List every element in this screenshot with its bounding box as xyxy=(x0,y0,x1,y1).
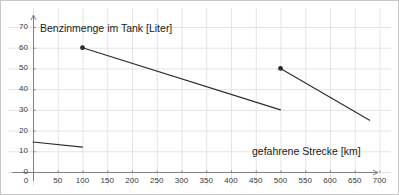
y-axis-tick-label: 20 xyxy=(19,127,28,135)
y-axis-title: Benzinmenge im Tank [Liter] xyxy=(40,23,172,34)
y-axis-tick-label: 10 xyxy=(19,147,28,155)
y-axis-tick-label: 0 xyxy=(24,168,28,176)
x-axis-tick-label: 50 xyxy=(53,177,62,185)
x-axis-tick-label: 0 xyxy=(24,177,28,185)
x-axis-tick-label: 100 xyxy=(76,177,89,185)
x-axis-tick-label: 350 xyxy=(200,177,213,185)
y-axis-tick-label: 30 xyxy=(19,106,28,114)
x-axis-tick-label: 300 xyxy=(175,177,188,185)
y-axis-tick-label: 60 xyxy=(19,44,28,52)
x-axis-tick-label: 150 xyxy=(101,177,114,185)
x-axis-tick-label: 250 xyxy=(150,177,163,185)
data-point-marker xyxy=(80,45,85,50)
x-axis-tick-label: 600 xyxy=(323,177,336,185)
x-axis-tick-label: 650 xyxy=(348,177,361,185)
x-axis-title: gefahrene Strecke [km] xyxy=(252,146,361,157)
y-axis-tick-label: 50 xyxy=(19,64,28,72)
x-axis-tick-label: 700 xyxy=(373,177,386,185)
y-axis-tick-label: 40 xyxy=(19,85,28,93)
x-axis-tick-label: 400 xyxy=(224,177,237,185)
x-axis-tick-label: 200 xyxy=(125,177,138,185)
data-point-marker xyxy=(278,66,283,71)
x-axis-tick-label: 450 xyxy=(249,177,262,185)
x-axis-tick-label: 500 xyxy=(274,177,287,185)
x-axis-tick-label: 550 xyxy=(299,177,312,185)
y-axis-tick-label: 70 xyxy=(19,23,28,31)
chart-figure: 010203040506070 050100150200250300350400… xyxy=(0,0,399,195)
